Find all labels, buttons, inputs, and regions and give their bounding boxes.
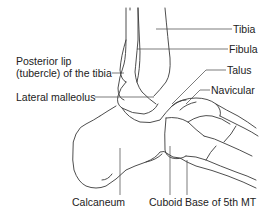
leader-navicular [186,90,210,104]
talus-outline [100,100,186,123]
label-talus: Talus [227,64,252,76]
label-lateral-malleolus: Lateral malleolus [16,91,95,103]
label-fibula: Fibula [229,43,258,55]
metatarsal-lines [186,104,258,180]
tibia-outline [118,8,170,100]
label-tibia: Tibia [233,23,255,35]
label-calcaneum: Calcaneum [72,196,125,208]
lateral-malleolus-outline [118,82,159,114]
cuboid-outline [165,118,204,159]
posterior-lip-outline [120,40,126,82]
label-base-5th-mt: Base of 5th MT [185,196,256,208]
label-cuboid: Cuboid [149,196,182,208]
fibula-outline [130,8,156,104]
foot-sole-outline [146,151,256,188]
label-posterior-lip-line2: (tubercle) of the tibia [16,67,112,79]
ankle-foot-diagram: Tibia Fibula Talus Navicular Posterior l… [0,0,268,218]
bone-outlines [0,0,268,218]
calcaneum-outline [73,116,162,188]
label-navicular: Navicular [211,84,255,96]
calcaneum-inner-line [102,174,112,180]
navicular-outline [172,98,230,124]
label-posterior-lip-line1: Posterior lip [16,55,71,67]
